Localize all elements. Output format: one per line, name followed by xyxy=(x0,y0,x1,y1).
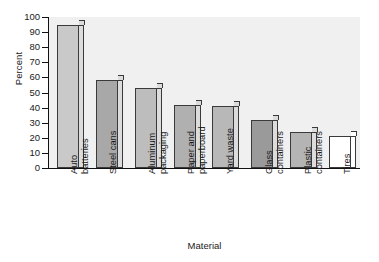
y-tick-label-100: 100 xyxy=(16,12,40,22)
y-tick-mark-70 xyxy=(42,62,48,63)
category-label-line1: Paper and xyxy=(186,131,196,174)
y-tick-label-30: 30 xyxy=(16,118,40,128)
y-tick-label-90: 90 xyxy=(16,27,40,37)
y-tick-label-80: 80 xyxy=(16,42,40,52)
y-tick-mark-50 xyxy=(42,93,48,94)
y-tick-mark-30 xyxy=(42,123,48,124)
bar-top-cap xyxy=(196,100,202,105)
y-axis-tick-labels: 0102030405060708090100 xyxy=(14,0,40,262)
bar-top-cap xyxy=(351,131,357,136)
y-tick-mark-60 xyxy=(42,77,48,78)
y-tick-label-0: 0 xyxy=(16,163,40,173)
category-label-line1: Plastic xyxy=(303,147,313,174)
category-label-line2: paperboard xyxy=(197,126,208,174)
x-axis-category-labels: AutobatteriesSteel cansAluminumpackaging… xyxy=(49,168,360,238)
category-label-line1: Aluminum xyxy=(147,133,157,174)
category-label-line2: packaging xyxy=(158,132,169,174)
bar-top-cap xyxy=(273,115,279,120)
y-tick-mark-40 xyxy=(42,108,48,109)
category-label-line1: Glass xyxy=(264,150,274,174)
y-tick-label-20: 20 xyxy=(16,133,40,143)
category-label-line2: containers xyxy=(313,131,324,174)
category-label-paper-and-paperboard: Paper andpaperboard xyxy=(186,126,207,174)
category-label-line2: containers xyxy=(274,131,285,174)
y-tick-mark-20 xyxy=(42,138,48,139)
bar-top-cap xyxy=(118,75,124,80)
category-label-line1: Steel cans xyxy=(108,131,118,174)
category-label-yard-waste: Yard waste xyxy=(225,128,236,174)
y-tick-label-60: 60 xyxy=(16,73,40,83)
category-label-line1: Tires xyxy=(342,154,352,174)
category-label-plastic-containers: Plasticcontainers xyxy=(303,131,324,174)
y-tick-label-50: 50 xyxy=(16,88,40,98)
bar-top-cap xyxy=(157,83,163,88)
category-label-auto-batteries: Autobatteries xyxy=(69,138,90,174)
bar-chart-figure: Percent 0102030405060708090100 Autobatte… xyxy=(0,0,379,262)
category-label-glass-containers: Glasscontainers xyxy=(264,131,285,174)
y-tick-mark-10 xyxy=(42,153,48,154)
y-tick-label-70: 70 xyxy=(16,58,40,68)
bar-top-cap xyxy=(79,20,85,25)
bar-top-cap xyxy=(234,101,240,106)
category-label-line1: Yard waste xyxy=(225,128,235,174)
category-label-tires: Tires xyxy=(342,154,353,174)
category-label-steel-cans: Steel cans xyxy=(108,131,119,174)
y-tick-mark-80 xyxy=(42,47,48,48)
category-label-line2: batteries xyxy=(80,138,91,174)
y-tick-mark-100 xyxy=(42,17,48,18)
y-tick-mark-0 xyxy=(42,168,48,169)
y-tick-label-10: 10 xyxy=(16,148,40,158)
bar-side-face xyxy=(118,80,123,168)
y-tick-label-40: 40 xyxy=(16,103,40,113)
category-label-line1: Auto xyxy=(69,155,79,174)
x-axis-title: Material xyxy=(49,240,360,251)
category-label-aluminum-packaging: Aluminumpackaging xyxy=(147,132,168,174)
y-tick-mark-90 xyxy=(42,32,48,33)
